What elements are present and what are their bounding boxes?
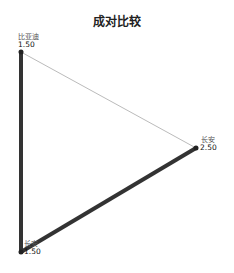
node-top-value: 1.50 (18, 41, 35, 49)
edge-top-right (21, 52, 196, 148)
node-right-value: 2.50 (200, 144, 217, 152)
edge-bottom-right (21, 148, 196, 252)
node-top[interactable] (19, 50, 24, 55)
node-bottom-value: 1.50 (24, 248, 41, 256)
node-right[interactable] (194, 146, 199, 151)
node-bottom[interactable] (19, 250, 24, 255)
